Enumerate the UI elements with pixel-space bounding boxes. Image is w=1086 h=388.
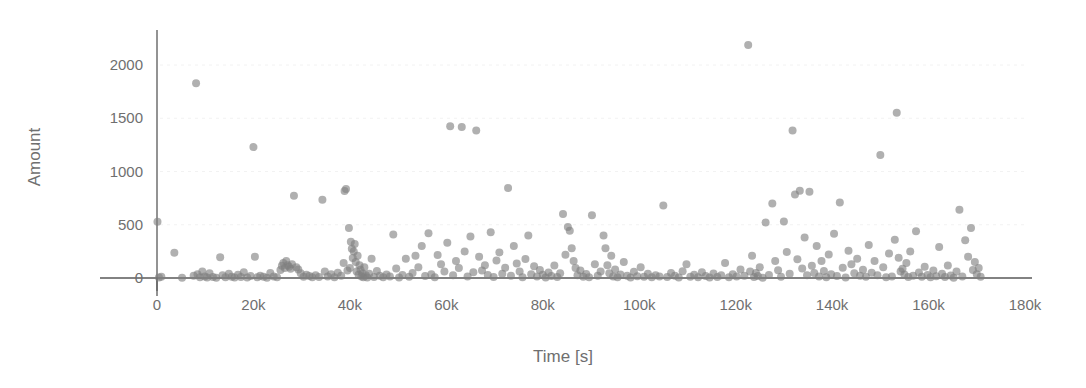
data-point [748,252,756,260]
x-tick-label: 80k [531,296,556,313]
data-point [733,272,741,280]
x-axis-title: Time [s] [533,347,593,366]
data-point [386,273,394,281]
data-point [487,228,495,236]
data-point [607,252,615,260]
data-point [961,236,969,244]
data-point [340,259,348,267]
data-point [842,273,850,281]
data-point [351,240,359,248]
data-point [461,247,469,255]
data-point [825,251,833,259]
data-point [443,239,451,247]
x-tick-label: 60k [434,296,459,313]
data-point [789,127,797,135]
data-point [437,260,445,268]
x-tick-label: 160k [912,296,945,313]
data-point [865,241,873,249]
data-point [808,262,816,270]
data-point [955,206,963,214]
data-point [977,273,985,281]
x-tick-label: 140k [816,296,849,313]
data-point [597,268,605,276]
data-point [879,263,887,271]
data-point [679,267,687,275]
data-point [935,243,943,251]
data-point [620,258,628,266]
data-point [921,263,929,271]
data-point [967,224,975,232]
data-point [153,218,161,226]
data-point [249,143,257,151]
data-point [859,266,867,274]
data-point [318,196,326,204]
data-point [342,185,350,193]
data-point [440,268,448,276]
data-point [744,41,752,49]
data-point [566,227,574,235]
data-point [431,273,439,281]
data-point [813,242,821,250]
data-point [891,236,899,244]
data-point [346,264,354,272]
data-point [414,263,422,271]
x-tick-label: 20k [241,296,266,313]
x-tick-label: 100k [623,296,656,313]
data-point [389,231,397,239]
data-point [510,242,518,250]
x-tick-labels: 020k40k60k80k100k120k140k160k180k [153,296,1042,313]
data-point [888,272,896,280]
data-point [958,272,966,280]
data-point [833,272,841,280]
data-point [424,229,432,237]
data-point [895,254,903,262]
data-point [157,273,165,281]
data-point [603,261,611,269]
data-point [409,269,417,277]
data-point [570,257,578,265]
y-tick-labels: 0500100015002000 [110,56,143,286]
data-point [495,248,503,256]
scatter-chart: 020k40k60k80k100k120k140k160k180k 050010… [0,0,1086,388]
data-point [504,184,512,192]
data-point [616,270,624,278]
x-tick-label: 0 [153,296,161,313]
data-point [777,273,785,281]
data-point [871,257,879,265]
y-axis-title: Amount [25,127,44,186]
data-point [906,247,914,255]
data-point [216,253,224,261]
chart-canvas: 020k40k60k80k100k120k140k160k180k 050010… [0,0,1086,388]
x-tick-label: 180k [1009,296,1042,313]
data-point [418,242,426,250]
data-point [893,109,901,117]
data-point [360,263,368,271]
data-point [513,260,521,268]
data-point [801,234,809,242]
data-point [455,264,463,272]
data-point [501,264,509,272]
data-point [876,151,884,159]
data-point [524,231,532,239]
data-point [756,263,764,271]
data-point [975,264,983,272]
data-point [449,271,457,279]
data-point [845,247,853,255]
data-point [521,255,529,263]
data-point [780,218,788,226]
data-point [368,255,376,263]
data-point [765,271,773,279]
data-point [345,224,353,232]
data-point [337,272,345,280]
data-point [178,274,186,282]
data-point [550,261,558,269]
x-tick-label: 40k [338,296,363,313]
data-point [458,123,466,131]
y-tick-label: 1000 [110,163,143,180]
data-point [783,248,791,256]
data-point [561,251,569,259]
y-tick-label: 500 [118,216,143,233]
data-point [633,272,641,280]
data-point [247,272,255,280]
data-point [793,255,801,263]
